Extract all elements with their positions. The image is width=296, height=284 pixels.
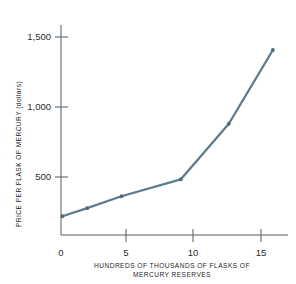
y-tick-label-500: 500	[35, 171, 51, 182]
mercury-price-chart: 500 1,000 1,500 0 5 10 15 PRICE PER FLAS…	[0, 0, 296, 284]
data-point	[179, 177, 183, 181]
x-tick-label-5: 5	[123, 247, 128, 258]
x-tick-label-10: 10	[188, 247, 199, 258]
data-point	[120, 194, 124, 198]
data-point	[85, 206, 89, 210]
price-series-line	[62, 50, 272, 216]
y-tick-label-1500: 1,500	[27, 31, 51, 42]
x-tick-label-15: 15	[256, 247, 267, 258]
x-axis-title-line1: HUNDREDS OF THOUSANDS OF FLASKS OF	[94, 262, 250, 269]
data-point	[271, 48, 275, 52]
price-series-points	[60, 48, 274, 218]
y-axis-title: PRICE PER FLASK OF MERCURY (dollars)	[15, 81, 23, 227]
data-point	[227, 122, 231, 126]
y-tick-label-1000: 1,000	[27, 101, 51, 112]
cropped-header-text	[10, 0, 220, 4]
x-tick-label-0: 0	[58, 247, 63, 258]
chart-canvas: 500 1,000 1,500 0 5 10 15 PRICE PER FLAS…	[0, 0, 296, 284]
data-point	[60, 214, 64, 218]
x-axis-title-line2: MERCURY RESERVES	[133, 271, 211, 278]
